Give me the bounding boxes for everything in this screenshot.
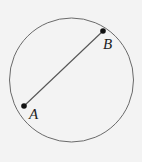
chord-ab xyxy=(24,31,103,106)
circle xyxy=(10,18,134,142)
point-b-dot xyxy=(100,28,106,34)
point-a-dot xyxy=(21,103,27,109)
diagram-canvas: A B xyxy=(0,0,142,162)
diagram-svg xyxy=(0,0,142,162)
point-b-label: B xyxy=(103,37,112,52)
point-a-label: A xyxy=(29,107,38,122)
